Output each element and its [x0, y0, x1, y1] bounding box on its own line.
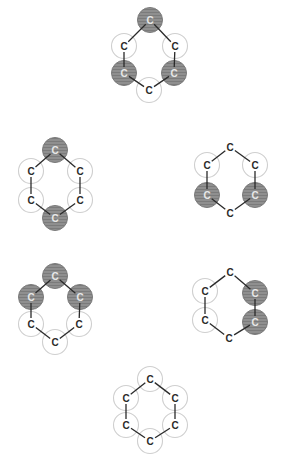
molecules-layer: CCCCCCCCCCCCCCCCCCCCCCCCCCCCCCCCCCCC	[19, 8, 268, 454]
carbon-atom-label: C	[201, 315, 208, 326]
bond-line	[174, 52, 175, 67]
carbon-atom-label: C	[120, 41, 127, 52]
carbon-atom-label: C	[146, 15, 153, 26]
carbon-atom-label: C	[145, 85, 152, 96]
carbon-atom-label: C	[51, 337, 58, 348]
carbon-atom-label: C	[27, 319, 34, 330]
carbon-atom-label: C	[75, 319, 82, 330]
molecule-lower-right: CCCCCC	[193, 267, 268, 344]
bond-line	[131, 383, 146, 395]
carbon-atom-label: C	[51, 271, 58, 282]
carbon-atom-label: C	[76, 166, 83, 177]
bond-line	[155, 428, 170, 438]
bond-line	[128, 24, 146, 42]
carbon-atom-label: C	[27, 166, 34, 177]
carbon-atom-label: C	[226, 208, 233, 219]
bond-line	[36, 328, 50, 339]
carbon-atom-label: C	[170, 68, 177, 79]
carbon-atom-label: C	[120, 68, 127, 79]
carbon-atom-label: C	[251, 190, 258, 201]
carbon-atom-label: C	[171, 41, 178, 52]
carbon-atom-label: C	[226, 267, 233, 278]
carbon-atom-label: C	[171, 393, 178, 404]
carbon-atom-label: C	[203, 160, 210, 171]
carbon-atom-label: C	[146, 374, 153, 385]
molecule-bottom: CCCCCC	[114, 367, 188, 454]
bond-line	[210, 324, 224, 335]
carbon-atom-label: C	[122, 420, 129, 431]
carbon-atom-label: C	[171, 420, 178, 431]
carbon-atom-label: C	[225, 333, 232, 344]
carbon-atom-label: C	[51, 213, 58, 224]
carbon-atom-label: C	[251, 160, 258, 171]
bond-line	[155, 383, 170, 395]
carbon-atom-label: C	[251, 317, 258, 328]
carbon-atom-label: C	[27, 195, 34, 206]
molecule-lower-left: CCCCCC	[19, 264, 93, 355]
molecule-top: CCCCCC	[112, 8, 188, 103]
carbon-atom-label: C	[51, 145, 58, 156]
carbon-atom-label: C	[226, 142, 233, 153]
bond-line	[235, 151, 250, 162]
carbon-atom-label: C	[251, 288, 258, 299]
carbon-atom-label: C	[27, 292, 34, 303]
carbon-atom-label: C	[76, 195, 83, 206]
cyclohexane-ring-diagram: CCCCCCCCCCCCCCCCCCCCCCCCCCCCCCCCCCCC	[0, 0, 288, 467]
molecule-middle-right: CCCCCC	[195, 142, 268, 219]
carbon-atom-label: C	[201, 286, 208, 297]
bond-line	[154, 24, 171, 41]
bond-line	[210, 276, 225, 288]
molecule-middle-left: CCCCCC	[19, 138, 93, 231]
bond-line	[79, 303, 80, 318]
carbon-atom-label: C	[122, 393, 129, 404]
carbon-atom-label: C	[146, 436, 153, 447]
carbon-atom-label: C	[76, 292, 83, 303]
bond-line	[60, 328, 74, 339]
carbon-atom-label: C	[203, 190, 210, 201]
